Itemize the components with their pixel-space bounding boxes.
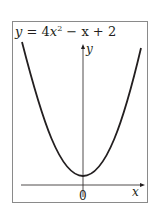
equation-label: y = 4x2 − x + 2 [14,24,116,39]
chart-svg: y = 4x2 − x + 2 y x 0 [0,0,157,209]
y-axis-label: y [85,42,93,56]
parabola-figure: y = 4x2 − x + 2 y x 0 [0,0,157,209]
x-axis-label: x [132,185,139,199]
origin-tick-label: 0 [79,189,87,203]
